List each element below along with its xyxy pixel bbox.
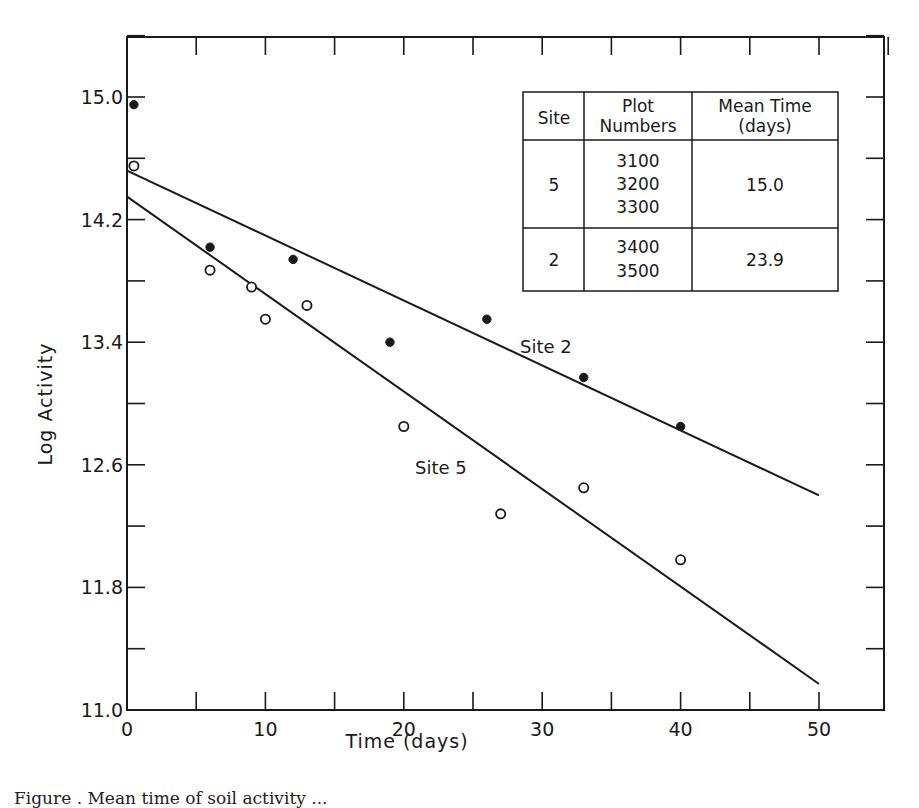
table-row1-mean: 15.0 xyxy=(746,175,784,195)
filled-point xyxy=(289,255,297,263)
x-tick-label: 50 xyxy=(807,718,831,740)
table-row1-plot1: 3100 xyxy=(616,151,659,171)
filled-point xyxy=(130,100,138,108)
table-row2-plot2: 3500 xyxy=(616,261,659,281)
y-tick-label: 15.0 xyxy=(81,86,123,108)
filled-point xyxy=(580,373,588,381)
open-point xyxy=(261,315,270,324)
site5-line-label: Site 5 xyxy=(415,457,467,478)
x-axis-title: Time (days) xyxy=(344,730,468,752)
table-header-plot-line1: Plot xyxy=(622,96,654,116)
filled-point xyxy=(676,422,684,430)
table-row1-plot3: 3300 xyxy=(616,197,659,217)
inset-table: Site Plot Numbers Mean Time (days) 5 310… xyxy=(523,92,838,291)
open-point xyxy=(579,483,588,492)
filled-point xyxy=(483,315,491,323)
open-point xyxy=(205,266,214,275)
open-point xyxy=(676,555,685,564)
y-axis-title: Log Activity xyxy=(34,342,56,465)
table-row2-site: 2 xyxy=(549,250,560,270)
figure-caption: Figure . Mean time of soil activity ... xyxy=(14,788,327,808)
site2-line-label: Site 2 xyxy=(520,336,572,357)
table-row1-plot2: 3200 xyxy=(616,174,659,194)
table-row2-mean: 23.9 xyxy=(746,250,784,270)
x-tick-label: 0 xyxy=(121,718,133,740)
y-tick-label: 13.4 xyxy=(81,331,123,353)
table-row1-site: 5 xyxy=(549,175,560,195)
filled-point xyxy=(206,243,214,251)
table-row2-plot1: 3400 xyxy=(616,237,659,257)
y-tick-label: 14.2 xyxy=(81,209,123,231)
open-point xyxy=(247,282,256,291)
open-point xyxy=(496,509,505,518)
open-point xyxy=(302,301,311,310)
filled-point xyxy=(386,338,394,346)
y-tick-label: 11.0 xyxy=(81,699,123,721)
table-header-site: Site xyxy=(538,108,571,128)
y-tick-label: 12.6 xyxy=(81,454,123,476)
x-tick-label: 30 xyxy=(530,718,554,740)
table-header-plot-line2: Numbers xyxy=(599,116,676,136)
x-tick-label: 40 xyxy=(669,718,693,740)
table-header-mean-line2: (days) xyxy=(738,116,791,136)
open-point xyxy=(399,422,408,431)
x-tick-label: 10 xyxy=(253,718,277,740)
table-header-mean-line1: Mean Time xyxy=(718,96,811,116)
open-point xyxy=(129,161,138,170)
y-tick-label: 11.8 xyxy=(81,576,123,598)
